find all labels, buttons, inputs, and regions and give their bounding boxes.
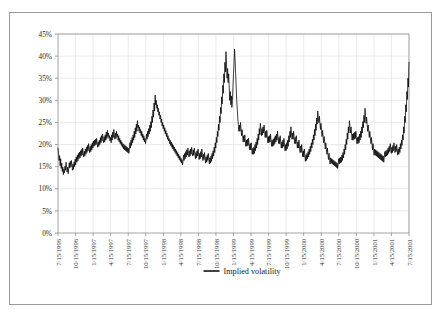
x-axis-label: 1/15/2001 [371,239,378,266]
x-axis-label: 1/15/1999 [230,238,237,265]
x-axis-label: 4/15/1997 [107,238,114,265]
x-axis-label: 7/15/1998 [195,238,202,265]
x-axis-label: 7/15/1999 [265,238,272,265]
y-axis-label: 40% [38,52,52,61]
y-axis-label: 35% [38,74,52,83]
x-axis-label: 10/15/1998 [213,238,220,269]
chart-figure-frame: 0%5%10%15%20%25%30%35%40%45%7/15/199610/… [9,12,432,305]
x-axis-label: 7/15/1996 [55,238,62,265]
x-axis-label: 10/15/1997 [142,238,149,269]
y-axis-label: 5% [42,207,52,216]
x-axis-label: 7/15/2000 [335,238,342,265]
y-axis-label: 10% [38,184,52,193]
x-axis-label: 4/15/2000 [318,238,325,265]
y-axis-label: 45% [38,30,52,39]
x-axis-label: 4/15/2001 [388,239,395,266]
x-axis-label: 10/15/1996 [72,238,79,269]
y-axis-label: 20% [38,140,52,149]
x-axis-label: 7/15/1997 [125,238,132,265]
x-axis-label: 7/15/2001 [406,239,413,266]
x-axis-label: 10/15/2000 [353,238,360,269]
x-axis-label: 1/15/1998 [160,238,167,265]
x-axis-label: 10/15/1999 [283,238,290,269]
legend-label: Implied volatility [224,267,282,276]
x-axis-label: 4/15/1999 [248,238,255,265]
y-axis-label: 25% [38,118,52,127]
y-axis-label: 30% [38,96,52,105]
implied-volatility-line-chart: 0%5%10%15%20%25%30%35%40%45%7/15/199610/… [10,13,433,306]
x-axis-label: 1/15/2000 [300,238,307,265]
y-axis-label: 15% [38,162,52,171]
chart-plot-wrapper: 0%5%10%15%20%25%30%35%40%45%7/15/199610/… [10,13,433,306]
x-axis-label: 1/15/1997 [90,238,97,265]
y-axis-label: 0% [42,229,52,238]
x-axis-label: 4/15/1998 [177,238,184,265]
